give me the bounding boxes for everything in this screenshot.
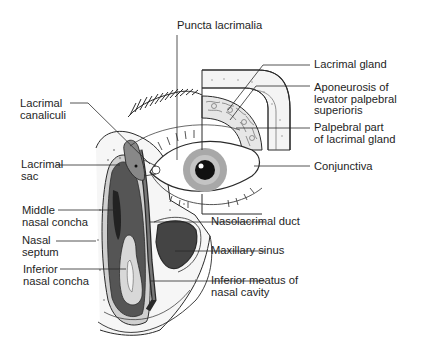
label-inferior-meatus: Inferior meatus of nasal cavity — [211, 275, 298, 298]
label-line: Aponeurosis of — [314, 82, 397, 94]
label-palpebral-part: Palpebral part of lacrimal gland — [314, 122, 395, 145]
label-line: Lacrimal — [21, 159, 63, 171]
label-inferior-nasal-concha: Inferior nasal concha — [23, 264, 89, 287]
label-line: nasal concha — [23, 276, 89, 288]
label-lacrimal-gland: Lacrimal gland — [314, 59, 387, 71]
label-line: nasal concha — [22, 217, 88, 229]
label-line: Conjunctiva — [314, 161, 372, 173]
label-line: Palpebral part — [314, 122, 395, 134]
label-puncta-lacrimalia: Puncta lacrimalia — [177, 20, 262, 32]
label-line: Lacrimal — [20, 98, 66, 110]
label-line: septum — [22, 247, 59, 259]
label-line: Middle — [22, 205, 88, 217]
label-line: Nasal — [22, 235, 59, 247]
label-line: Nasolacrimal duct — [211, 216, 300, 228]
label-line: canaliculi — [20, 110, 66, 122]
label-lacrimal-canaliculi: Lacrimal canaliculi — [20, 98, 66, 121]
label-line: sac — [21, 171, 63, 183]
label-line: Puncta lacrimalia — [177, 20, 262, 32]
label-line: of lacrimal gland — [314, 134, 395, 146]
label-lacrimal-sac: Lacrimal sac — [21, 159, 63, 182]
label-middle-nasal-concha: Middle nasal concha — [22, 205, 88, 228]
label-line: Maxillary sinus — [211, 245, 284, 257]
label-line: superioris — [314, 105, 397, 117]
eyebrow — [128, 89, 202, 117]
label-nasal-septum: Nasal septum — [22, 235, 59, 258]
lacrimal-gland — [202, 70, 290, 150]
label-line: Inferior meatus of — [211, 275, 298, 287]
label-line: nasal cavity — [211, 287, 298, 299]
label-conjunctiva: Conjunctiva — [314, 161, 372, 173]
label-nasolacrimal-duct: Nasolacrimal duct — [211, 216, 300, 228]
label-line: Lacrimal gland — [314, 59, 387, 71]
label-line: Inferior — [23, 264, 89, 276]
label-aponeurosis: Aponeurosis of levator palpebral superio… — [314, 82, 397, 117]
label-maxillary-sinus: Maxillary sinus — [211, 245, 284, 257]
